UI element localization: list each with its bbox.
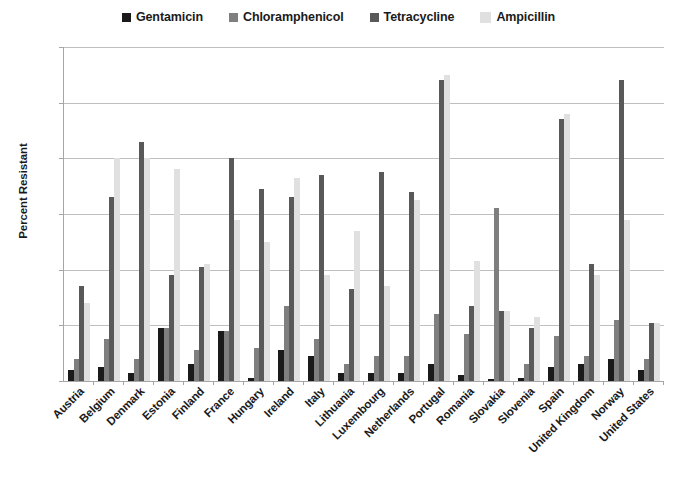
x-label-cell: Ireland [273, 383, 303, 479]
chart-legend: GentamicinChloramphenicolTetracyclineAmp… [0, 6, 677, 28]
legend-swatch-icon [370, 13, 379, 22]
legend-label: Tetracycline [384, 10, 455, 24]
bar-ampicillin[interactable] [84, 303, 89, 381]
bar-group [454, 47, 484, 381]
bar-group [574, 47, 604, 381]
bar-group [154, 47, 184, 381]
legend-label: Ampicillin [496, 10, 555, 24]
x-label-cell: Belgium [93, 383, 123, 479]
bar-group [424, 47, 454, 381]
bar-group [94, 47, 124, 381]
bar-ampicillin[interactable] [294, 178, 299, 381]
bar-group [364, 47, 394, 381]
plot-area: 0%10%20%30%40%50%60% [63, 47, 664, 382]
x-label-cell: United States [633, 383, 663, 479]
x-label-cell: France [213, 383, 243, 479]
legend-item-ampicillin[interactable]: Ampicillin [480, 10, 555, 24]
bar-group [484, 47, 514, 381]
y-tick-mark [59, 270, 64, 271]
resistance-bar-chart: GentamicinChloramphenicolTetracyclineAmp… [0, 0, 677, 481]
legend-item-gentamicin[interactable]: Gentamicin [122, 10, 203, 24]
bar-group [124, 47, 154, 381]
bar-group [244, 47, 274, 381]
x-label-cell: Slovakia [483, 383, 513, 479]
bar-ampicillin[interactable] [564, 114, 569, 381]
legend-label: Gentamicin [136, 10, 203, 24]
x-label-cell: Slovenia [513, 383, 543, 479]
bar-group [514, 47, 544, 381]
bar-ampicillin[interactable] [444, 75, 449, 381]
legend-swatch-icon [122, 13, 131, 22]
bar-ampicillin[interactable] [414, 200, 419, 381]
x-label-cell: Austria [63, 383, 93, 479]
bar-ampicillin[interactable] [354, 231, 359, 381]
bar-ampicillin[interactable] [234, 220, 239, 381]
bar-ampicillin[interactable] [534, 317, 539, 381]
x-label-cell: United Kingdom [573, 383, 603, 479]
bar-group [304, 47, 334, 381]
bar-ampicillin[interactable] [264, 242, 269, 381]
y-tick-mark [59, 325, 64, 326]
bar-ampicillin[interactable] [384, 286, 389, 381]
bar-ampicillin[interactable] [174, 169, 179, 381]
x-label-cell: Portugal [423, 383, 453, 479]
bar-ampicillin[interactable] [504, 311, 509, 381]
bar-ampicillin[interactable] [204, 264, 209, 381]
y-tick-mark [59, 158, 64, 159]
bar-group [334, 47, 364, 381]
x-axis-label: Italy [302, 385, 326, 409]
y-tick-mark [59, 381, 64, 382]
bar-group [544, 47, 574, 381]
legend-swatch-icon [480, 12, 491, 23]
x-label-cell: Finland [183, 383, 213, 479]
x-label-cell: Estonia [153, 383, 183, 479]
legend-item-chloramphenicol[interactable]: Chloramphenicol [229, 10, 344, 24]
legend-swatch-icon [229, 13, 238, 22]
bar-ampicillin[interactable] [654, 323, 659, 381]
x-label-cell: Romania [453, 383, 483, 479]
bar-groups [64, 47, 664, 381]
bar-group [604, 47, 634, 381]
bar-group [214, 47, 244, 381]
bar-group [64, 47, 94, 381]
bar-group [274, 47, 304, 381]
x-label-cell: Italy [303, 383, 333, 479]
bar-group [634, 47, 664, 381]
bar-ampicillin[interactable] [324, 275, 329, 381]
x-tick-mark [663, 381, 664, 385]
y-tick-mark [59, 47, 64, 48]
y-axis-title: Percent Resistant [17, 121, 29, 261]
x-label-cell: Netherlands [393, 383, 423, 479]
legend-item-tetracycline[interactable]: Tetracycline [370, 10, 455, 24]
x-label-cell: Hungary [243, 383, 273, 479]
bar-ampicillin[interactable] [474, 261, 479, 381]
x-axis-category-labels: AustriaBelgiumDenmarkEstoniaFinlandFranc… [63, 383, 663, 479]
bar-ampicillin[interactable] [624, 220, 629, 381]
bar-ampicillin[interactable] [144, 158, 149, 381]
legend-label: Chloramphenicol [243, 10, 344, 24]
y-tick-mark [59, 103, 64, 104]
bar-ampicillin[interactable] [594, 275, 599, 381]
bar-group [184, 47, 214, 381]
bar-ampicillin[interactable] [114, 158, 119, 381]
x-label-cell: Denmark [123, 383, 153, 479]
y-tick-mark [59, 214, 64, 215]
bar-group [394, 47, 424, 381]
